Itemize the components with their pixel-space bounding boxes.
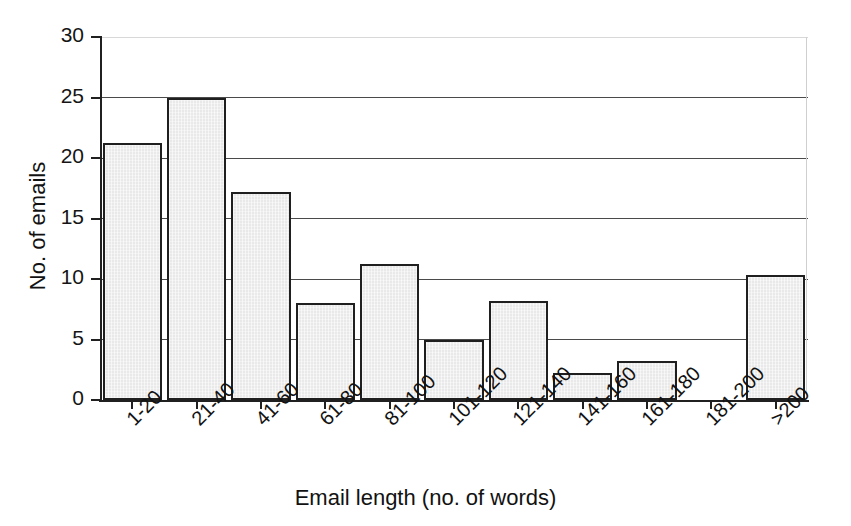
gridline-30 bbox=[100, 37, 808, 38]
y-tick-15 bbox=[91, 218, 100, 220]
y-tick-label-30: 30 bbox=[22, 23, 84, 47]
y-tick-5 bbox=[91, 339, 100, 341]
y-tick-30 bbox=[91, 36, 100, 38]
y-tick-label-20: 20 bbox=[22, 144, 84, 168]
y-tick-label-0: 0 bbox=[22, 386, 84, 410]
bar-81-100 bbox=[360, 264, 419, 400]
y-tick-25 bbox=[91, 97, 100, 99]
y-tick-label-5: 5 bbox=[22, 326, 84, 350]
plot-right-edge bbox=[806, 37, 807, 401]
y-tick-label-15: 15 bbox=[22, 205, 84, 229]
y-tick-10 bbox=[91, 278, 100, 280]
bar-21-40 bbox=[167, 98, 226, 401]
y-tick-label-25: 25 bbox=[22, 84, 84, 108]
bar-41-60 bbox=[231, 192, 290, 400]
chart-figure: No. of emails 051015202530 1-2021-4041-6… bbox=[0, 0, 851, 526]
y-tick-label-10: 10 bbox=[22, 265, 84, 289]
y-tick-20 bbox=[91, 157, 100, 159]
bar-1-20 bbox=[103, 143, 162, 400]
x-axis-title: Email length (no. of words) bbox=[0, 485, 851, 511]
